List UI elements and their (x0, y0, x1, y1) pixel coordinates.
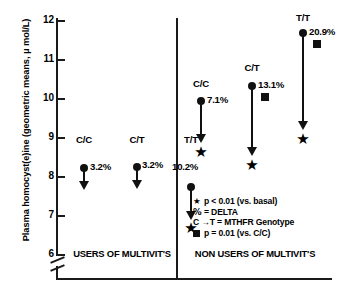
legend-genotype-text: C →T = MTHFR Genotype (193, 217, 294, 227)
percent-icon: % (193, 207, 204, 218)
group-label-nonusers-ct: C/T (245, 62, 260, 73)
legend-row-genotype: C →T = MTHFR Genotype (193, 217, 294, 228)
delta-label-nonusers-cc: 7.1% (207, 94, 228, 105)
y-tick-10 (58, 98, 65, 100)
significance-star-nonusers-cc: ★ (194, 145, 207, 160)
y-tick-label-12: 12 (34, 15, 54, 25)
change-stem-users-tt (190, 187, 192, 212)
change-stem-nonusers-ct (251, 86, 253, 148)
legend-star-text: p < 0.01 (vs. basal) (204, 196, 277, 206)
y-tick-label-6: 6 (34, 249, 54, 259)
group-label-nonusers-tt: T/T (296, 12, 310, 23)
legend-square-text: p = 0.01 (vs. C/C) (204, 228, 270, 238)
y-tick-11 (58, 59, 65, 61)
change-arrow-users-cc (79, 181, 89, 190)
group-label-users-cc: C/C (76, 134, 92, 145)
y-tick-label-9: 9 (34, 132, 54, 142)
legend-row-star: ★p < 0.01 (vs. basal) (193, 196, 294, 207)
y-tick-6 (58, 254, 65, 256)
legend-delta-text: = DELTA (204, 207, 238, 217)
delta-label-users-cc: 3.2% (90, 161, 111, 172)
panel-caption-users: USERS OF MULTIVIT'S (73, 248, 171, 259)
star-icon: ★ (193, 196, 204, 207)
chart-legend: ★p < 0.01 (vs. basal) %= DELTA C →T = MT… (193, 196, 294, 238)
x-axis-line (56, 278, 332, 280)
delta-label-users-tt: 10.2% (172, 161, 198, 172)
y-tick-label-8: 8 (34, 171, 54, 181)
change-stem-users-ct (136, 167, 138, 180)
change-stem-users-cc (83, 168, 85, 181)
significance-star-nonusers-tt: ★ (296, 132, 309, 147)
y-tick-12 (58, 20, 65, 22)
y-tick-label-10: 10 (34, 93, 54, 103)
group-label-nonusers-cc: C/C (193, 78, 209, 89)
y-axis-title: Plasma homocyst(e)ine (geometric means, … (21, 0, 31, 260)
legend-row-delta: %= DELTA (193, 207, 294, 218)
panel-divider (176, 18, 178, 280)
homocysteine-genotype-figure: Plasma homocyst(e)ine (geometric means, … (0, 0, 343, 299)
significance-star-nonusers-ct: ★ (245, 158, 258, 173)
square-icon (193, 230, 200, 237)
y-tick-8 (58, 176, 65, 178)
y-tick-label-7: 7 (34, 210, 54, 220)
y-tick-9 (58, 137, 65, 139)
delta-label-nonusers-ct: 13.1% (258, 79, 284, 90)
square-marker-nonusers-tt (313, 40, 321, 48)
change-arrow-users-ct (132, 180, 142, 189)
change-arrow-nonusers-cc (196, 134, 206, 143)
change-arrow-nonusers-ct (247, 147, 257, 156)
panel-caption-nonusers: NON USERS OF MULTIVIT'S (195, 248, 315, 259)
change-stem-nonusers-tt (302, 33, 304, 122)
delta-label-nonusers-tt: 20.9% (309, 26, 335, 37)
group-label-users-ct: C/T (130, 134, 145, 145)
change-arrow-nonusers-tt (298, 121, 308, 130)
y-tick-label-11: 11 (34, 54, 54, 64)
delta-label-users-ct: 3.2% (142, 159, 163, 170)
square-marker-nonusers-ct (261, 93, 269, 101)
change-stem-nonusers-cc (200, 101, 202, 135)
legend-row-square: p = 0.01 (vs. C/C) (193, 228, 294, 239)
y-tick-7 (58, 215, 65, 217)
